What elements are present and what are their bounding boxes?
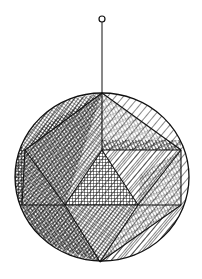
icosahedron-sphere-illustration [0, 0, 202, 279]
hanging-ring [99, 16, 105, 22]
icosahedron-faces [0, 80, 202, 279]
